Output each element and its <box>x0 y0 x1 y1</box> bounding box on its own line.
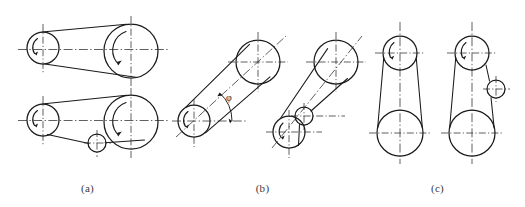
rotation-arrow-large <box>113 103 126 134</box>
rotation-arrowhead-large <box>117 132 122 137</box>
rotation-arrowhead-small <box>391 56 395 60</box>
belt-lower-span-left <box>48 135 90 144</box>
group-b: φ <box>172 32 366 158</box>
belt-lower-span <box>45 64 138 78</box>
rotation-arrowhead-large <box>117 61 122 66</box>
phi-angle-label: φ <box>226 92 232 103</box>
rotation-arrow-large <box>113 32 126 63</box>
vertical-drive-with-idler <box>441 22 510 164</box>
rotation-arrowhead-small <box>463 56 467 60</box>
belt-drive-figure: φ <box>0 0 525 207</box>
group-c <box>369 22 510 164</box>
rotation-arrowhead-small <box>35 124 39 128</box>
rotation-arrowhead-small <box>281 136 285 140</box>
rotation-arrow-small <box>184 112 188 127</box>
rotation-arrow-small <box>33 39 38 54</box>
belt-upper-span <box>42 95 127 104</box>
rotation-arrow-small <box>461 43 466 58</box>
belt-right-span-upper <box>486 65 490 81</box>
figure-root: φ <box>0 0 525 207</box>
belt-upper-span <box>186 44 250 107</box>
vertical-drive-plain <box>369 22 431 164</box>
rotation-arrowhead-small <box>35 52 39 56</box>
horizontal-drive-with-idler <box>18 88 168 159</box>
belt-lower-span <box>206 77 271 133</box>
belt-lower-span-left <box>299 125 300 146</box>
inclined-drive-with-idler <box>266 32 366 158</box>
horizontal-drive-plain <box>18 16 168 88</box>
rotation-arrow-small <box>33 111 38 126</box>
inclined-drive-plain: φ <box>172 32 288 147</box>
rotation-arrow-small <box>389 43 394 58</box>
centerline-inclined-b2 <box>272 36 362 148</box>
group-a <box>18 16 168 159</box>
